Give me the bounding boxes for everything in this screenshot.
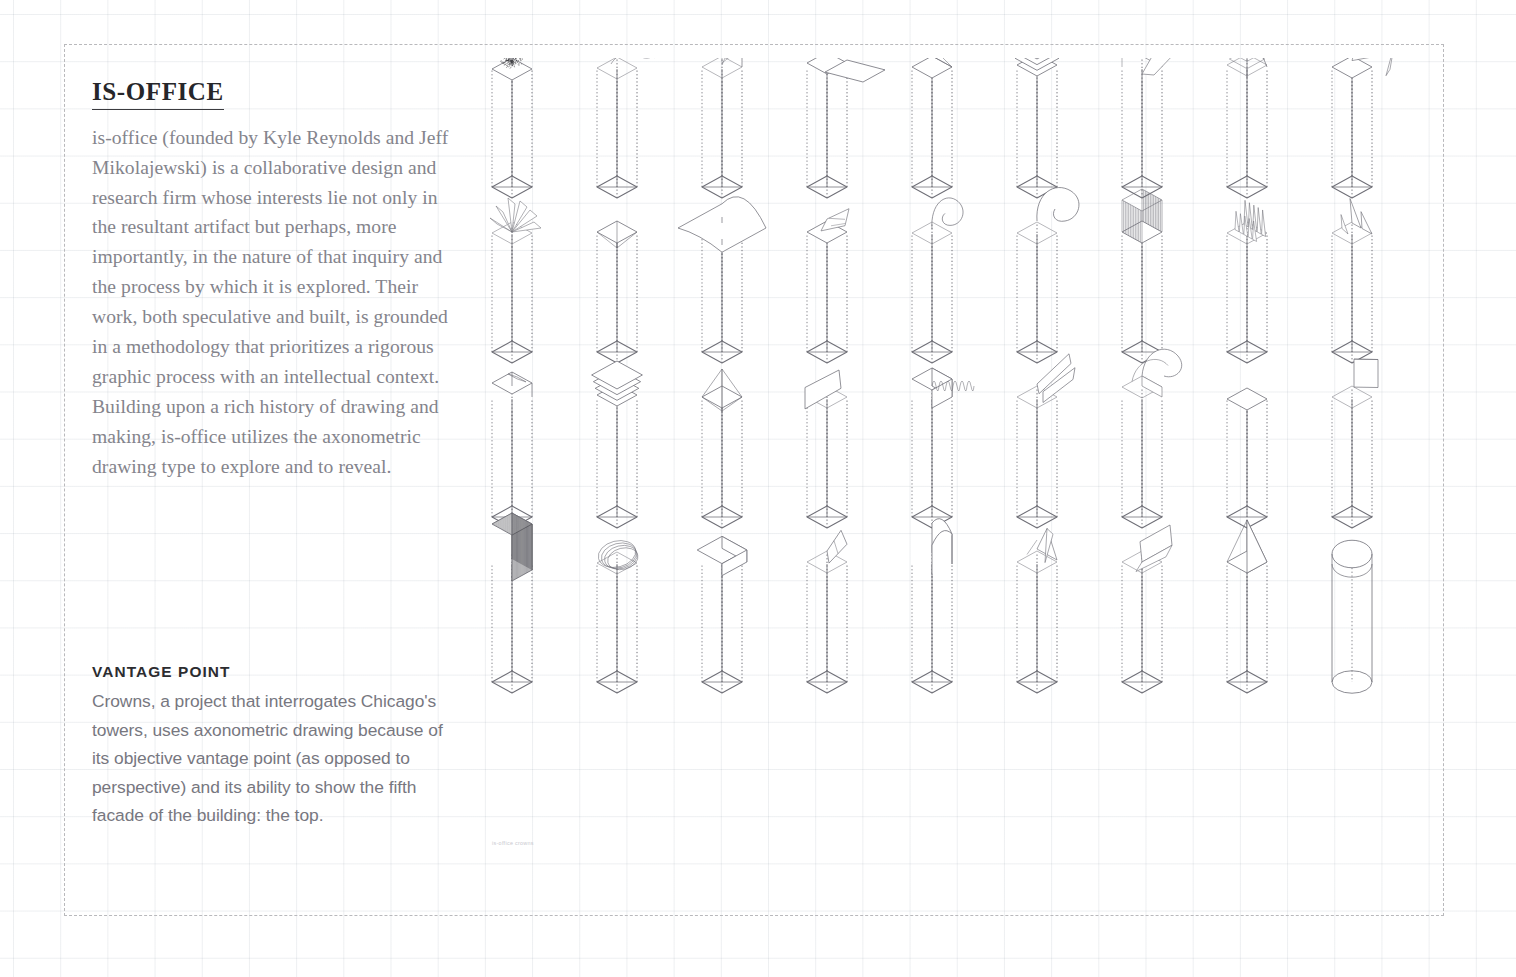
axonometric-tower-grid: dense scribble moundcurled ribbon captwi… — [484, 58, 1444, 878]
vantage-point-block: VANTAGE POINT Crowns, a project that int… — [92, 663, 464, 830]
tower-2: curled ribbon cap — [597, 58, 656, 198]
is-office-description-block: IS-OFFICE is-office (founded by Kyle Rey… — [92, 78, 462, 482]
tower-1: dense scribble mound — [492, 58, 532, 198]
tower-5: antenna star spire — [912, 58, 952, 198]
tower-27: plain closed prism — [1227, 388, 1267, 528]
tower-33: barrel arch — [912, 519, 952, 693]
tower-26: rolled mass — [1122, 349, 1182, 528]
tower-22: diamond cage — [702, 369, 742, 528]
tower-8: concentric stepped pyramid — [1227, 58, 1267, 198]
tower-15: scrolled curl — [912, 198, 963, 363]
tower-20: notched cap — [492, 372, 532, 528]
tower-37: cylindrical shaft with dome — [1332, 540, 1372, 693]
vantage-point-text: Crowns, a project that interrogates Chic… — [92, 687, 464, 830]
page-title: IS-OFFICE — [92, 78, 224, 110]
tower-23: leaning slab — [805, 370, 847, 528]
tower-21: stacked plates — [592, 361, 643, 528]
tower-17: comb fins — [1122, 189, 1162, 363]
tower-28: blade fin — [1332, 359, 1378, 528]
vantage-point-heading: VANTAGE POINT — [92, 663, 464, 681]
tower-11: inverted cone void — [597, 221, 637, 363]
tower-35: tilted prism — [1122, 525, 1172, 693]
tower-24: dripping block — [912, 368, 974, 528]
tower-29: hatched cube — [492, 513, 532, 693]
tower-6: stacked plates — [1012, 58, 1063, 198]
tower-32: sliced wedge — [807, 530, 847, 693]
tower-31: pillow cap — [697, 536, 747, 693]
tower-4: cantilevered slab — [807, 58, 885, 198]
tower-13: saddle canopy — [678, 197, 766, 363]
office-description-text: is-office (founded by Kyle Reynolds and … — [92, 123, 454, 482]
sheet-micro-caption: is-office crowns — [492, 840, 534, 846]
tower-18: crystal teeth — [1227, 200, 1267, 363]
tower-3: twin barrel vault — [702, 58, 742, 198]
tower-9: bent plank cap — [1332, 58, 1394, 198]
tower-19: split peaks — [1332, 199, 1372, 364]
tower-34: zigzag crest — [1017, 529, 1057, 694]
tower-36: pyramid spire — [1227, 520, 1267, 693]
tower-10: shard burst — [490, 198, 541, 363]
tower-25: double tilted flap — [1017, 354, 1075, 528]
tower-14: creased wedge — [807, 209, 849, 363]
tower-30: ring halo — [595, 537, 640, 693]
tower-7: folded open box — [1122, 58, 1170, 198]
tower-16: peeling wave — [1017, 188, 1079, 363]
